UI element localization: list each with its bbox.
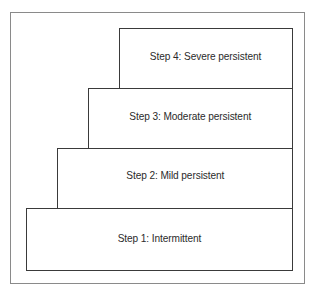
step-4-label: Step 4: Severe persistent [150,50,261,62]
step-1-box: Step 1: Intermittent [26,208,293,271]
step-4-box: Step 4: Severe persistent [119,28,293,90]
step-3-box: Step 3: Moderate persistent [88,88,293,150]
step-2-box: Step 2: Mild persistent [57,148,293,210]
step-1-label: Step 1: Intermittent [118,232,202,244]
step-3-label: Step 3: Moderate persistent [130,110,252,122]
step-2-label: Step 2: Mild persistent [126,169,224,181]
